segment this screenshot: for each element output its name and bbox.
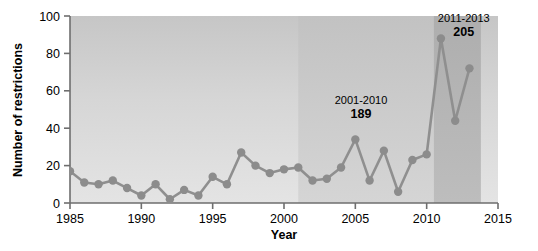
annotation-range-2011-2013: 2011-2013 — [438, 12, 490, 24]
chart-figure: 020406080100 198519901995200020052010201… — [0, 0, 538, 251]
x-tick-label: 2010 — [413, 212, 441, 226]
y-axis-ticks: 020406080100 — [39, 10, 70, 211]
y-tick-label: 0 — [53, 197, 60, 211]
data-point — [365, 176, 373, 184]
data-point — [123, 184, 131, 192]
data-point — [308, 176, 316, 184]
y-tick-label: 40 — [46, 122, 60, 136]
x-tick-label: 1990 — [127, 212, 155, 226]
x-tick-label: 1985 — [56, 212, 84, 226]
data-point — [394, 188, 402, 196]
data-point — [223, 180, 231, 188]
data-point — [380, 146, 388, 154]
y-axis-title: Number of restrictions — [11, 43, 25, 177]
annotation-range-2001-2010: 2001-2010 — [335, 94, 388, 106]
x-axis-title: Year — [271, 228, 298, 242]
data-point — [137, 191, 145, 199]
data-point — [66, 167, 74, 175]
y-tick-label: 60 — [46, 84, 60, 98]
data-point — [408, 156, 416, 164]
data-point — [351, 135, 359, 143]
x-axis-ticks: 1985199019952000200520102015 — [56, 203, 512, 226]
data-point — [251, 161, 259, 169]
data-point — [437, 34, 445, 42]
data-point — [166, 195, 174, 203]
data-point — [180, 186, 188, 194]
y-tick-label: 100 — [39, 10, 60, 24]
data-point — [337, 163, 345, 171]
x-tick-label: 1995 — [199, 212, 227, 226]
data-point — [94, 180, 102, 188]
data-point — [465, 64, 473, 72]
data-point — [151, 180, 159, 188]
data-point — [323, 174, 331, 182]
annotation-value-205: 205 — [453, 25, 474, 39]
data-point — [280, 165, 288, 173]
x-tick-label: 2000 — [270, 212, 298, 226]
data-point — [80, 178, 88, 186]
data-point — [237, 148, 245, 156]
data-point — [194, 191, 202, 199]
y-tick-label: 80 — [46, 47, 60, 61]
x-tick-label: 2005 — [341, 212, 369, 226]
data-point — [109, 176, 117, 184]
data-point — [451, 117, 459, 125]
line-chart: 020406080100 198519901995200020052010201… — [0, 0, 538, 251]
y-tick-label: 20 — [46, 159, 60, 173]
data-point — [208, 173, 216, 181]
data-point — [422, 150, 430, 158]
data-point — [294, 163, 302, 171]
data-point — [266, 169, 274, 177]
x-tick-label: 2015 — [484, 212, 512, 226]
annotation-value-189: 189 — [351, 107, 372, 121]
